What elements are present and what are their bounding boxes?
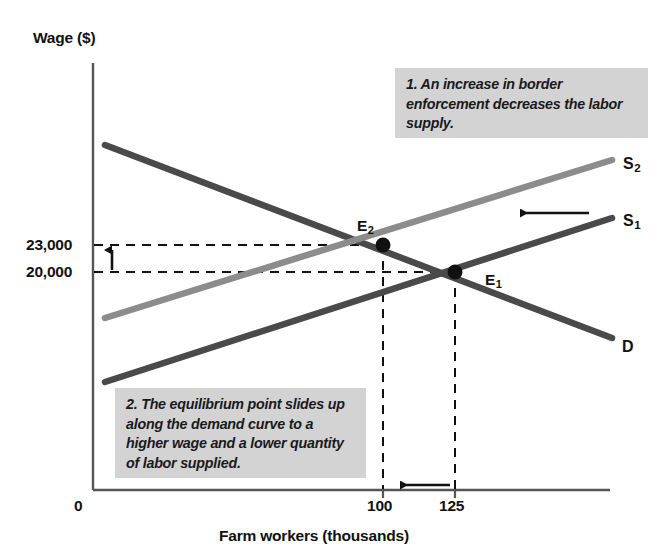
- supply-curve-s1-label: S1: [623, 212, 640, 230]
- y-axis-title: Wage ($): [33, 29, 95, 47]
- supply-curve-s2-label-sub: 2: [634, 162, 640, 174]
- x-tick-origin: 0: [74, 497, 82, 515]
- supply-curve-s2-label: S2: [623, 155, 640, 173]
- supply-curve-s1-label-sub: 1: [634, 219, 640, 231]
- x-tick-125: 125: [439, 497, 464, 515]
- y-tick-23000: 23,000: [26, 236, 72, 254]
- equilibrium-label-e1: E1: [485, 271, 501, 289]
- supply-curve-s2: [105, 160, 612, 318]
- equilibrium-point-e2: [376, 238, 391, 253]
- equilibrium-label-e2-sub: 2: [368, 224, 374, 236]
- x-tick-100: 100: [367, 497, 392, 515]
- supply-curve-s1-label-text: S: [623, 212, 634, 229]
- equilibrium-label-e1-sub: 1: [496, 278, 502, 290]
- economics-supply-demand-figure: supply: [0, 0, 668, 558]
- equilibrium-label-e1-text: E: [485, 271, 495, 288]
- demand-curve-label: D: [622, 338, 634, 356]
- callout-supply-shift: 1. An increase in border enforcement dec…: [395, 68, 648, 138]
- supply-curve-s2-label-text: S: [623, 155, 634, 172]
- equilibrium-label-e2-text: E: [357, 217, 367, 234]
- y-tick-20000: 20,000: [26, 263, 72, 281]
- equilibrium-label-e2: E2: [357, 217, 373, 235]
- x-axis-title: Farm workers (thousands): [219, 527, 409, 545]
- equilibrium-point-e1: [448, 265, 463, 280]
- callout-equilibrium-slide: 2. The equilibrium point slides up along…: [115, 388, 366, 478]
